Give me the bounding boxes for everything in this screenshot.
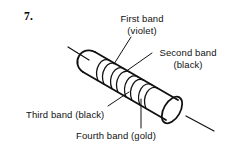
leader-line-first-band: [114, 37, 131, 64]
label-second-band-name: Second band: [159, 47, 216, 58]
label-fourth-band: Fourth band (gold): [76, 130, 156, 142]
leader-line-second-band: [125, 53, 152, 72]
label-first-band-name: First band: [120, 13, 163, 24]
body-right-face: [158, 93, 187, 126]
band-arc-1b: [103, 63, 116, 84]
band-arc-2b: [117, 71, 130, 92]
right-lead-wire: [186, 116, 214, 131]
leader-line-third-band: [108, 92, 129, 106]
label-first-band-value: (violet): [108, 25, 176, 37]
band-arc-3b: [131, 79, 144, 100]
label-second-band: Second band (black): [150, 47, 226, 70]
label-second-band-value: (black): [150, 59, 226, 71]
label-fourth-band-name: Fourth band (gold): [76, 130, 156, 141]
label-third-band: Third band (black): [26, 109, 104, 121]
band-arc-4b: [145, 87, 158, 108]
label-first-band: First band (violet): [108, 13, 176, 36]
resistor-figure: 7.: [0, 0, 228, 154]
label-third-band-name: Third band (black): [26, 109, 104, 120]
body-left-cap: [77, 50, 95, 72]
